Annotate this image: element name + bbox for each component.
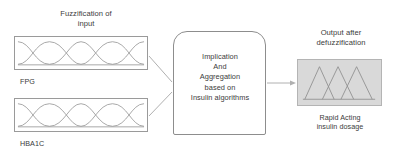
- arrowhead-icon: [290, 80, 296, 85]
- hba1c-caption: HBA1C: [20, 139, 80, 148]
- fuzzification-heading: Fuzzification of input: [36, 9, 136, 28]
- connector-hba1c-to-process: [149, 92, 172, 116]
- output-membership-plot: [297, 59, 382, 106]
- hba1c-membership-plot: [14, 98, 148, 132]
- implication-aggregation-text: Implication And Aggregation based on Ins…: [176, 52, 264, 103]
- diagram-canvas: Fuzzification of input FPG HBA1C Implica…: [0, 0, 404, 159]
- fpg-caption: FPG: [20, 77, 80, 86]
- fpg-membership-plot: [14, 36, 148, 70]
- gaussian-membership-curves-icon: [15, 99, 147, 131]
- triangular-membership-functions-icon: [298, 60, 381, 105]
- defuzzification-heading: Output after defuzzification: [290, 28, 392, 47]
- gaussian-membership-curves-icon: [15, 37, 147, 69]
- connector-fpg-to-process: [149, 56, 172, 82]
- output-caption: Rapid Acting insulin dosage: [297, 113, 383, 131]
